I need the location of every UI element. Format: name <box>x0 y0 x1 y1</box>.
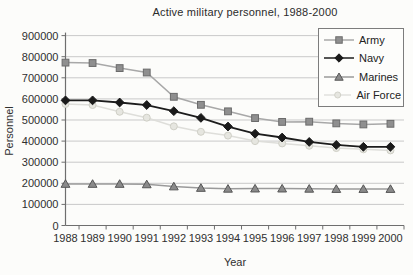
x-tick-label: 1999 <box>351 232 375 244</box>
diamond-marker-icon <box>224 122 233 131</box>
y-tick-label: 200000 <box>22 177 59 189</box>
diamond-marker-icon <box>251 129 260 138</box>
legend-item-army: Army <box>324 34 401 46</box>
circle-marker-icon <box>116 108 123 115</box>
x-tick-label: 1994 <box>216 232 240 244</box>
legend-label-air-force: Air Force <box>356 89 401 101</box>
square-marker-icon <box>306 118 313 125</box>
legend-swatch-navy-diamond-icon <box>324 52 354 64</box>
legend-item-marines: Marines <box>324 71 401 83</box>
y-tick-label: 600000 <box>22 93 59 105</box>
x-axis-title: Year <box>65 256 405 268</box>
diamond-marker-icon <box>169 107 178 116</box>
x-tick-label: 1993 <box>189 232 213 244</box>
series-marines <box>61 180 395 193</box>
square-marker-icon <box>279 118 286 125</box>
y-tick-label: 900000 <box>22 30 59 42</box>
diamond-marker-icon <box>335 54 343 62</box>
legend-label-navy: Navy <box>359 52 384 64</box>
legend-swatch-army-square-icon <box>324 34 354 46</box>
square-marker-icon <box>143 69 150 76</box>
y-tick-label: 0 <box>52 220 58 232</box>
legend-item-air-force: Air Force <box>324 89 401 101</box>
square-marker-icon <box>333 120 340 127</box>
circle-marker-icon <box>143 114 150 121</box>
square-marker-icon <box>360 121 367 128</box>
circle-marker-icon <box>197 128 204 135</box>
diamond-marker-icon <box>142 101 151 110</box>
legend-swatch-air-force-circle-icon <box>324 89 351 101</box>
x-tick-label: 1996 <box>270 232 294 244</box>
y-tick-label: 400000 <box>22 135 59 147</box>
x-tick-label: 1998 <box>324 232 348 244</box>
x-tick-label: 1995 <box>243 232 267 244</box>
square-marker-icon <box>252 115 259 122</box>
y-tick-label: 300000 <box>22 156 59 168</box>
x-tick-label: 2000 <box>378 232 402 244</box>
legend: Army Navy Marines Air Force <box>318 28 404 107</box>
legend-swatch-marines-triangle-icon <box>324 71 354 83</box>
square-marker-icon <box>225 108 232 115</box>
x-tick-label: 1990 <box>107 232 131 244</box>
legend-label-marines: Marines <box>359 71 398 83</box>
y-tick-label: 100000 <box>22 198 59 210</box>
legend-item-navy: Navy <box>324 52 401 64</box>
x-tick-label: 1988 <box>53 232 77 244</box>
circle-marker-icon <box>170 123 177 130</box>
diamond-marker-icon <box>197 113 206 122</box>
x-tick-label: 1991 <box>134 232 158 244</box>
chart-page: Active military personnel, 1988-2000 Per… <box>0 0 413 275</box>
square-marker-icon <box>336 37 342 43</box>
square-marker-icon <box>198 101 205 108</box>
legend-label-army: Army <box>359 34 385 46</box>
diamond-marker-icon <box>278 133 287 142</box>
x-tick-label: 1997 <box>297 232 321 244</box>
square-marker-icon <box>62 59 69 66</box>
y-tick-label: 800000 <box>22 51 59 63</box>
square-marker-icon <box>387 120 394 127</box>
square-marker-icon <box>170 93 177 100</box>
y-tick-label: 500000 <box>22 114 59 126</box>
y-tick-label: 700000 <box>22 72 59 84</box>
circle-marker-icon <box>335 92 341 98</box>
diamond-marker-icon <box>115 98 124 107</box>
circle-marker-icon <box>224 132 231 139</box>
square-marker-icon <box>89 60 96 67</box>
square-marker-icon <box>116 65 123 72</box>
x-tick-label: 1992 <box>162 232 186 244</box>
x-tick-label: 1989 <box>80 232 104 244</box>
